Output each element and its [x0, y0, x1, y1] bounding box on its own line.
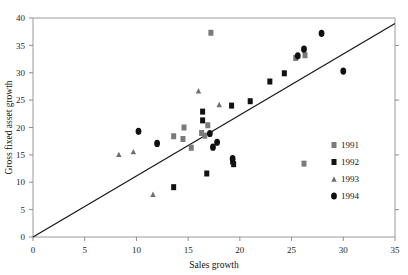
plot-frame	[33, 18, 395, 237]
x-tick-label: 10	[132, 245, 142, 255]
series-1993	[116, 88, 222, 197]
legend-marker-1991	[332, 142, 337, 148]
series-1991	[171, 30, 307, 167]
y-tick-label: 40	[16, 13, 26, 23]
y-tick-label: 35	[16, 41, 26, 51]
legend-label-1991: 1991	[341, 140, 359, 150]
y-tick-label: 10	[16, 177, 26, 187]
x-tick-label: 25	[287, 245, 297, 255]
legend-label-1992: 1992	[341, 157, 359, 167]
series-1994	[136, 30, 347, 163]
y-tick-label: 15	[16, 150, 26, 160]
legend-marker-1992	[332, 159, 337, 165]
x-tick-label: 15	[184, 245, 194, 255]
x-tick-label: 5	[82, 245, 87, 255]
x-tick-label: 20	[235, 245, 245, 255]
y-tick-label: 20	[16, 123, 26, 133]
scatter-chart-figure: 051015202530350510152025303540Sales grow…	[0, 0, 408, 275]
scatter-plot: 051015202530350510152025303540Sales grow…	[0, 0, 408, 275]
x-tick-label: 30	[339, 245, 349, 255]
series-1992	[171, 70, 287, 190]
y-tick-label: 30	[16, 68, 26, 78]
legend-label-1993: 1993	[341, 174, 360, 184]
x-tick-label: 35	[391, 245, 401, 255]
y-axis-title: Gross fixed asset growth	[4, 80, 14, 174]
legend-label-1994: 1994	[341, 191, 360, 201]
x-axis-title: Sales growth	[189, 260, 239, 270]
legend-marker-1993	[331, 176, 336, 181]
reference-line	[33, 23, 395, 237]
y-tick-label: 5	[21, 205, 26, 215]
y-tick-label: 0	[21, 232, 26, 242]
y-tick-label: 25	[16, 95, 26, 105]
x-tick-label: 0	[31, 245, 36, 255]
legend-marker-1994	[331, 192, 337, 199]
